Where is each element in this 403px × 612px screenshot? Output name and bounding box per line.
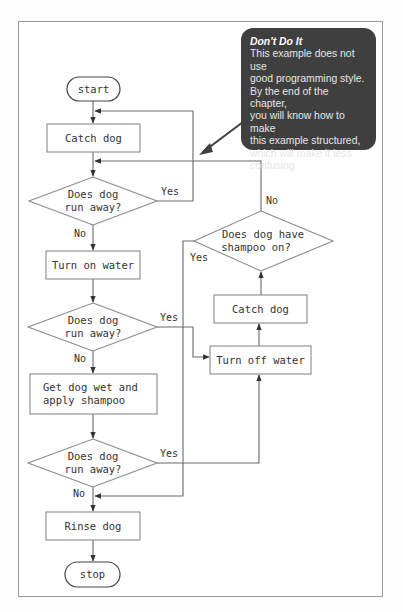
decision-shampoo-on: Does dog have shampoo on? [194,211,333,271]
turn-on-water-label: Turn on water [52,259,134,271]
terminal-stop: stop [65,562,120,587]
d1-yes-label: Yes [161,186,179,197]
decision-3-line1: Does dog [68,450,119,462]
decision-run-away-3: Does dog run away? [28,439,157,487]
decision-run-away-1: Does dog run away? [29,177,157,225]
get-dog-wet-line1: Get dog wet and [43,381,138,393]
stop-label: stop [80,568,105,580]
terminal-start: start [67,77,120,101]
decision-run-away-2: Does dog run away? [28,303,157,351]
callout-title: Don't Do It [250,36,368,48]
process-turn-off-water: Turn off water [210,346,311,374]
get-dog-wet-line2: apply shampoo [43,394,125,406]
shampoo-yes-label: Yes [190,252,208,263]
dont-do-it-callout: Don't Do It This example does not use go… [241,28,376,150]
d2-no-label: No [74,353,86,364]
process-catch-dog-2: Catch dog [214,295,307,323]
process-rinse-dog: Rinse dog [46,512,140,540]
shampoo-line2: shampoo on? [221,241,291,253]
page: start Catch dog Does dog run away? Yes N… [0,0,403,612]
rinse-dog-label: Rinse dog [65,520,122,532]
catch-dog-2-label: Catch dog [232,303,289,315]
shampoo-no-label: No [266,195,278,206]
d2-yes-label: Yes [160,312,178,323]
turn-off-water-label: Turn off water [216,354,305,366]
callout-line: which will make it less [250,148,368,160]
callout-line: This example does not use [250,48,368,73]
decision-1-line2: run away? [65,201,122,213]
shampoo-line1: Does dog have [222,228,304,240]
decision-1-line1: Does dog [68,188,119,200]
callout-line: By the end of the chapter, [250,86,368,111]
d1-no-label: No [74,228,86,239]
callout-pointer-head [199,143,213,155]
process-get-dog-wet: Get dog wet and apply shampoo [30,374,157,414]
callout-line: good programming style. [250,73,368,85]
decision-2-line2: run away? [65,327,122,339]
process-catch-dog: Catch dog [47,124,140,152]
d3-yes-label: Yes [160,448,178,459]
decision-2-line1: Does dog [68,314,119,326]
callout-line: this example structured, [250,135,368,147]
callout-line: confusing. [250,160,368,172]
d3-no-label: No [73,488,85,499]
catch-dog-label: Catch dog [65,132,122,144]
decision-3-line2: run away? [65,463,122,475]
start-label: start [78,83,110,95]
callout-line: you will know how to make [250,110,368,135]
process-turn-on-water: Turn on water [46,251,140,279]
